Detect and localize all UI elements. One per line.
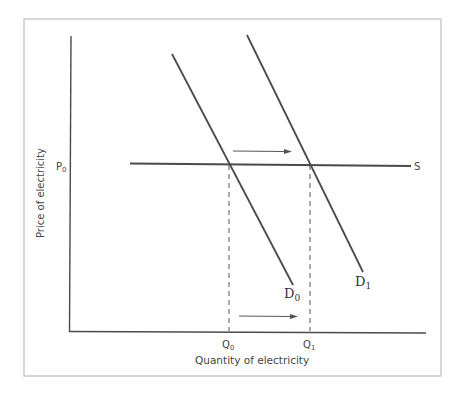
x-axis [69, 332, 426, 334]
shift-arrow-top [233, 149, 292, 154]
supply-demand-chart: Price of electricity Quantity of electri… [0, 0, 463, 395]
p0-label: P0 [56, 161, 67, 174]
supply-curve [130, 164, 411, 167]
q1-label: Q1 [303, 339, 315, 352]
d0-label: D0 [284, 286, 300, 303]
x-axis-label: Quantity of electricity [195, 354, 309, 366]
y-axis-label: Price of electricity [35, 148, 46, 238]
demand-curve-d1 [247, 35, 363, 272]
d1-label: D1 [355, 274, 371, 291]
supply-label: S [414, 161, 420, 172]
figure-frame [24, 19, 441, 376]
demand-curve-d0 [172, 54, 293, 285]
shift-arrow-bottom [239, 314, 298, 319]
q0-label: Q0 [222, 339, 234, 352]
y-axis [70, 36, 72, 332]
